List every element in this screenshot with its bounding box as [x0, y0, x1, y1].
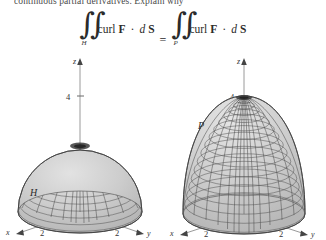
equals-sign: =	[158, 33, 169, 47]
plot-paraboloid-P: z 4 x 2 y 2	[163, 52, 326, 240]
plot-hemisphere-H: z 4 x 2 y 2	[0, 52, 163, 240]
prose-line: continuous partial derivatives. Explain …	[14, 0, 314, 8]
x-tick-label-2: 2	[40, 228, 44, 238]
dot-operator-rhs: ·	[220, 22, 228, 37]
z-axis-label: z	[72, 57, 77, 66]
x-axis-label: x	[5, 228, 10, 237]
dS-d-lhs: d	[139, 23, 145, 35]
double-integral-H: ∫∫ H	[80, 14, 95, 44]
z-tick-label-4: 4	[66, 92, 71, 102]
vector-F-lhs: F	[118, 23, 125, 35]
y-axis-label: y	[310, 230, 315, 239]
paraboloid-svg: z 4 x 2 y 2	[163, 52, 326, 240]
integral-subscript-P: P	[173, 39, 177, 47]
paraboloid-surface	[183, 95, 305, 234]
dS-S-rhs: S	[240, 23, 246, 35]
integral-symbol: ∫∫	[171, 9, 192, 39]
y-axis-label: y	[146, 229, 151, 238]
equation-rhs: ∫∫ P curl F · dS	[171, 14, 246, 44]
x-axis-label: x	[169, 229, 174, 238]
z-axis-label: z	[236, 57, 241, 66]
dS-d-rhs: d	[231, 23, 237, 35]
surface-label-P: P	[197, 120, 204, 131]
dS-S-lhs: S	[148, 23, 154, 35]
equation: ∫∫ H curl F · dS = ∫∫ P curl F · dS	[0, 14, 326, 48]
dot-operator-lhs: ·	[128, 22, 136, 37]
surface-label-H: H	[29, 187, 38, 198]
integral-subscript-H: H	[82, 39, 87, 47]
double-integral-P: ∫∫ P	[171, 14, 186, 44]
integral-symbol: ∫∫	[80, 9, 101, 39]
vector-F-rhs: F	[210, 23, 217, 35]
hemisphere-svg: z 4 x 2 y 2	[0, 52, 163, 240]
equation-lhs: ∫∫ H curl F · dS	[80, 14, 155, 44]
figure-page: continuous partial derivatives. Explain …	[0, 0, 326, 240]
